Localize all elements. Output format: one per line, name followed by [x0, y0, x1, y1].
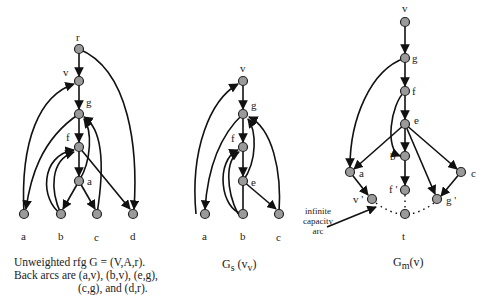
svg-text:c: c	[471, 167, 476, 179]
svg-text:b: b	[240, 230, 246, 242]
middle-title-close: )	[253, 257, 257, 271]
svg-text:c: c	[94, 231, 99, 243]
annotation-line-3: arc	[298, 226, 338, 236]
svg-text:f ': f '	[389, 183, 397, 195]
svg-text:a: a	[359, 167, 364, 179]
left-caption: Unweighted rfg G = (V,A,r). Back arcs ar…	[14, 256, 158, 295]
svg-text:g: g	[86, 96, 92, 108]
svg-text:g ': g '	[446, 194, 456, 206]
left-graph: r v g f a a b c d	[20, 31, 138, 243]
middle-caption: Gs (vv)	[222, 258, 257, 274]
svg-text:a: a	[21, 230, 26, 242]
svg-text:t: t	[402, 230, 405, 242]
annotation-line-1: infinite	[298, 206, 338, 216]
svg-text:a: a	[202, 230, 207, 242]
svg-text:a: a	[87, 175, 92, 187]
left-caption-line2: Back arcs are (a,v), (b,v), (e,g),	[14, 269, 158, 282]
svg-text:g: g	[412, 52, 418, 64]
svg-text:v: v	[240, 62, 246, 74]
svg-text:v: v	[402, 2, 408, 14]
right-title-main: G	[393, 255, 402, 269]
svg-text:r: r	[76, 31, 80, 43]
svg-text:g: g	[251, 99, 257, 111]
middle-title-main: G	[222, 257, 231, 271]
svg-text:e: e	[251, 176, 256, 188]
svg-text:e: e	[414, 114, 419, 126]
infinite-capacity-annotation: infinite capacity arc	[298, 206, 338, 236]
middle-graph: v g f e a b c	[195, 62, 284, 243]
svg-text:c: c	[276, 231, 281, 243]
svg-text:d: d	[130, 230, 136, 242]
svg-text:v ': v '	[353, 193, 363, 205]
right-title-arg: (v)	[409, 255, 423, 269]
svg-text:v: v	[63, 66, 69, 78]
svg-text:f: f	[66, 131, 70, 143]
annotation-line-2: capacity	[298, 216, 338, 226]
left-caption-line3: (c,g), and (d,r).	[14, 282, 158, 295]
right-caption: Gm(v)	[393, 256, 423, 272]
right-graph: v g f e b a c f ' v ' g ' t	[327, 2, 476, 242]
middle-title-arg: (v	[238, 257, 248, 271]
svg-text:f: f	[231, 132, 235, 144]
svg-text:b: b	[58, 230, 64, 242]
left-caption-title: Unweighted rfg G = (V,A,r).	[14, 256, 158, 269]
svg-text:f: f	[412, 85, 416, 97]
svg-text:b: b	[390, 150, 396, 162]
middle-title-sub: s	[231, 262, 235, 273]
